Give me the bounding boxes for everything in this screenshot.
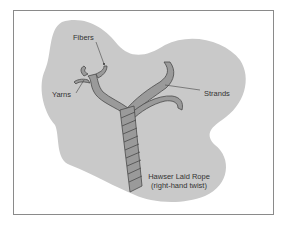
fibers-leader-dot: [103, 63, 105, 65]
rope-diagram: [0, 0, 283, 229]
rope-label-line2: (right-hand twist): [144, 181, 214, 190]
fibers-label: Fibers: [73, 33, 94, 42]
strands-label: Strands: [204, 89, 230, 98]
rope-label-line1: Hawser Laid Rope: [144, 172, 214, 181]
yarns-label: Yarns: [52, 90, 71, 99]
